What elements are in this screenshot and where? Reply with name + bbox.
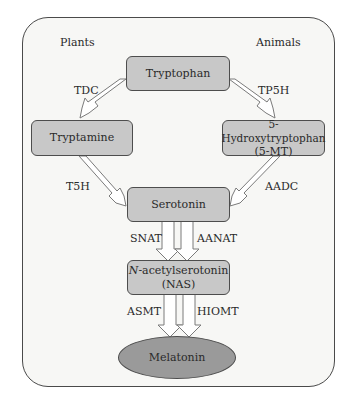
- node-serotonin: Serotonin: [127, 187, 230, 222]
- node-melatonin: Melatonin: [118, 336, 236, 379]
- node-label-line2: (5-MT): [255, 145, 293, 159]
- enzyme-snat: SNAT: [130, 232, 162, 245]
- node-label: Tryptophan: [146, 67, 211, 81]
- enzyme-t5h: T5H: [66, 180, 90, 193]
- node-label-line1: N-acetylserotonin: [129, 264, 229, 278]
- node-label-line2: (NAS): [162, 278, 196, 292]
- node-tryptophan: Tryptophan: [126, 56, 230, 91]
- node-label: Tryptamine: [50, 131, 114, 145]
- nas-rest: -acetylserotonin: [138, 264, 228, 277]
- enzyme-asmt: ASMT: [127, 305, 161, 318]
- enzyme-aadc: AADC: [265, 180, 298, 193]
- node-n-acetylserotonin: N-acetylserotonin (NAS): [127, 260, 230, 295]
- node-label: Serotonin: [151, 198, 206, 212]
- arrow-aanat: [175, 221, 199, 261]
- enzyme-aanat: AANAT: [197, 232, 237, 245]
- node-5-hydroxytryptophan: 5-Hydroxytryptophan (5-MT): [222, 120, 325, 156]
- enzyme-tdc: TDC: [74, 84, 99, 97]
- animals-header: Animals: [256, 36, 301, 49]
- arrow-asmt: [158, 294, 182, 337]
- enzyme-tp5h: TP5H: [258, 84, 289, 97]
- node-tryptamine: Tryptamine: [31, 120, 133, 156]
- enzyme-hiomt: HIOMT: [197, 305, 239, 318]
- plants-header: Plants: [60, 36, 95, 49]
- node-label: Melatonin: [149, 351, 206, 364]
- node-label-line1: 5-Hydroxytryptophan: [222, 117, 326, 145]
- italic-n: N: [129, 264, 139, 277]
